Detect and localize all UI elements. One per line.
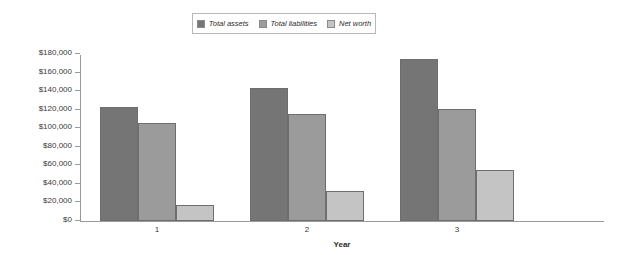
legend-swatch-icon — [327, 20, 335, 28]
y-axis-tick-row: $40,000 — [80, 183, 81, 184]
x-axis-category-label: 2 — [305, 226, 309, 234]
x-axis-category-label: 3 — [455, 226, 459, 234]
y-axis-tick-row: $120,000 — [80, 109, 81, 110]
x-axis-title: Year — [80, 241, 604, 249]
x-axis-line — [80, 221, 604, 222]
y-axis-tick-row: $140,000 — [80, 90, 81, 91]
y-axis-tick-label: $80,000 — [43, 142, 72, 150]
legend-label: Total liabilities — [271, 20, 317, 28]
y-axis-tick-row: $80,000 — [80, 146, 81, 147]
y-axis-tick-row: $100,000 — [80, 127, 81, 128]
plot-area: $0$20,000$40,000$60,000$80,000$100,000$1… — [80, 52, 604, 222]
y-axis-tick-label: $160,000 — [39, 68, 72, 76]
bar — [176, 205, 214, 221]
chart-legend: Total assetsTotal liabilitiesNet worth — [192, 13, 376, 34]
legend-swatch-icon — [197, 20, 205, 28]
y-axis-tick-label: $100,000 — [39, 123, 72, 131]
y-axis-tick-label: $60,000 — [43, 160, 72, 168]
legend-label: Total assets — [209, 20, 249, 28]
y-axis-tick-label: $140,000 — [39, 86, 72, 94]
bar — [400, 59, 438, 221]
y-axis-tick-row: $180,000 — [80, 53, 81, 54]
y-axis-tick-row: $60,000 — [80, 164, 81, 165]
legend-label: Net worth — [339, 20, 371, 28]
y-axis-tick-row: $0 — [80, 220, 81, 221]
legend-entry: Total assets — [197, 20, 249, 28]
legend-swatch-icon — [259, 20, 267, 28]
y-axis-tick-row: $160,000 — [80, 72, 81, 73]
bar — [438, 109, 476, 221]
bar — [100, 107, 138, 221]
y-axis-tick-label: $20,000 — [43, 197, 72, 205]
bar-chart: Total assetsTotal liabilitiesNet worth $… — [0, 0, 624, 255]
y-axis-tick-label: $180,000 — [39, 49, 72, 57]
legend-entry: Net worth — [327, 20, 371, 28]
y-axis-line — [80, 55, 81, 222]
y-axis-tick-label: $0 — [63, 216, 72, 224]
x-axis-category-label: 1 — [155, 226, 159, 234]
legend-entry: Total liabilities — [259, 20, 317, 28]
y-axis-tick-row: $20,000 — [80, 201, 81, 202]
bar — [476, 170, 514, 221]
bar — [138, 123, 176, 221]
bar — [250, 88, 288, 221]
bar — [288, 114, 326, 221]
y-axis-tick-label: $120,000 — [39, 105, 72, 113]
bar — [326, 191, 364, 221]
y-axis-tick-label: $40,000 — [43, 179, 72, 187]
